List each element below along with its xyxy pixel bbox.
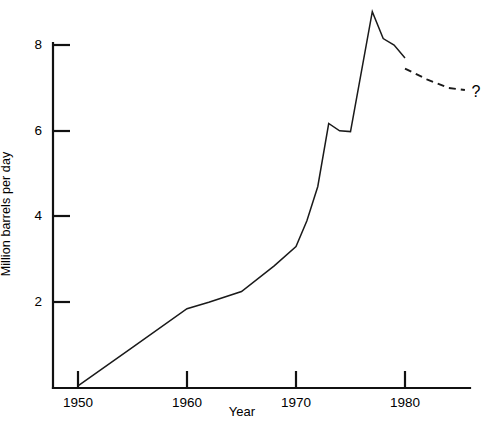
x-tick-label-1950: 1950 <box>63 396 93 410</box>
y-axis-title: Million barrels per day <box>0 152 13 277</box>
y-tick-label-8: 8 <box>26 38 42 52</box>
y-tick-label-6: 6 <box>26 124 42 138</box>
y-tick-label-4: 4 <box>26 209 42 223</box>
y-tick-label-2: 2 <box>26 295 42 309</box>
projection-data-line <box>405 69 465 90</box>
x-tick-label-1960: 1960 <box>172 396 202 410</box>
historical-data-line <box>78 12 405 386</box>
x-tick-label-1980: 1980 <box>390 396 420 410</box>
chart-plot-area <box>0 0 484 428</box>
x-tick-label-1970: 1970 <box>281 396 311 410</box>
forecast-question-mark-annotation: ? <box>471 84 480 100</box>
oil-imports-line-chart: 8 6 4 2 1950 1960 1970 1980 Million barr… <box>0 0 484 428</box>
x-axis-title: Year <box>229 404 255 419</box>
